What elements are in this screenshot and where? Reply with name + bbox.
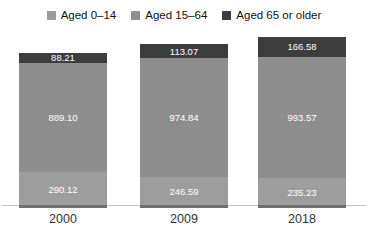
bar-2009: 246.59974.84113.07 <box>140 44 228 207</box>
segment-value-label: 235.23 <box>287 188 316 198</box>
segment-value-label: 290.12 <box>48 185 77 195</box>
bar-segment-2000-aged-0-14: 290.12 <box>19 172 107 207</box>
bar-2000: 290.12889.1088.21 <box>19 53 107 207</box>
bar-segment-2018-aged-0-14: 235.23 <box>258 178 346 207</box>
segment-value-label: 974.84 <box>169 113 198 123</box>
segment-value-label: 246.59 <box>169 187 198 197</box>
segment-value-label: 88.21 <box>51 53 75 63</box>
bar-segment-2009-aged-15-64: 974.84 <box>140 58 228 177</box>
segment-value-label: 113.07 <box>170 47 198 57</box>
x-axis-tick-label-2009: 2009 <box>140 212 228 226</box>
x-axis-tick-label-2000: 2000 <box>19 212 107 226</box>
bar-segment-2009-aged-0-14: 246.59 <box>140 177 228 207</box>
segment-value-label: 993.57 <box>287 113 316 123</box>
bar-baseline-strip <box>258 205 346 208</box>
x-axis-tick-label-2018: 2018 <box>258 212 346 226</box>
bar-baseline-strip <box>19 205 107 208</box>
bar-segment-2018-aged-15-64: 993.57 <box>258 57 346 178</box>
bar-segment-2018-aged-65-or-older: 166.58 <box>258 37 346 57</box>
segment-value-label: 166.58 <box>287 42 316 52</box>
plot-area: 290.12889.1088.212000246.59974.84113.072… <box>0 0 368 232</box>
bar-segment-2000-aged-15-64: 889.10 <box>19 63 107 171</box>
bar-baseline-strip <box>140 205 228 208</box>
bar-segment-2000-aged-65-or-older: 88.21 <box>19 53 107 64</box>
stacked-bar-chart: Aged 0–14Aged 15–64Aged 65 or older 290.… <box>0 0 368 232</box>
bar-segment-2009-aged-65-or-older: 113.07 <box>140 44 228 58</box>
segment-value-label: 889.10 <box>48 113 77 123</box>
bar-2018: 235.23993.57166.58 <box>258 37 346 207</box>
